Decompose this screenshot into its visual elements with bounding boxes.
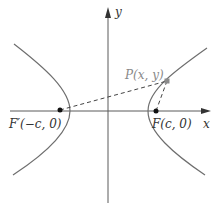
point-p-marker — [165, 79, 170, 84]
y-axis — [105, 7, 111, 203]
point-p-label: P(x, y) — [124, 68, 164, 82]
focus-left-label: F′(−c, 0) — [8, 117, 62, 131]
hyperbola-diagram: y x P(x, y) F′(−c, 0) F(c, 0) — [0, 0, 221, 209]
y-axis-arrow-icon — [105, 7, 111, 18]
x-axis-arrow-icon — [201, 108, 211, 114]
segment-f-to-p — [156, 81, 167, 111]
focus-right-label: F(c, 0) — [151, 117, 192, 131]
focus-left-dot — [58, 108, 63, 113]
focus-right-dot — [154, 109, 159, 114]
segment-f-prime-to-p — [60, 81, 167, 110]
diagram-canvas: y x P(x, y) F′(−c, 0) F(c, 0) — [0, 0, 221, 209]
x-axis-label: x — [203, 117, 210, 131]
x-axis — [10, 108, 211, 114]
y-axis-label: y — [114, 5, 122, 19]
